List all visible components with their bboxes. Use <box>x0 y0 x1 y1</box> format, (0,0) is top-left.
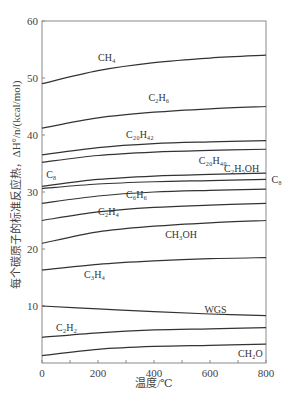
y-tick-label: 60 <box>27 15 39 27</box>
series-label: C₂₀H₄₂ <box>126 129 154 140</box>
y-tick-label: 20 <box>27 243 39 255</box>
x-tick-label: 200 <box>90 367 107 379</box>
x-tick-label: 0 <box>39 367 45 379</box>
series-line-c8 <box>42 179 266 188</box>
series-line-c3h4 <box>42 258 266 271</box>
series-line-c20h42 <box>42 141 266 155</box>
y-axis-title: 每个碳原子的标准反应热，ΔH°/n/(kcal/mol) <box>9 80 23 289</box>
series-label: CH₂O <box>238 348 263 359</box>
series-line-ch2o <box>42 344 266 355</box>
series-line-ch4 <box>42 55 266 83</box>
series-labels: CH₄C₂H₆C₂₀H₄₂C₈C₂₀H₄₀C₂H₅OHC₈C₆H₆C₂H₄CH₃… <box>46 52 282 359</box>
series-label: CH₄ <box>98 52 116 63</box>
series-label: C₃H₄ <box>84 269 105 280</box>
x-tick-label: 800 <box>258 367 275 379</box>
x-axis-title: 温度/℃ <box>135 376 172 389</box>
series-label: C₆H₆ <box>126 189 147 200</box>
y-tick-label: 40 <box>27 129 39 141</box>
series-line-c2h4 <box>42 203 266 220</box>
y-tick-label: 30 <box>27 186 39 198</box>
series-line-ch3oh <box>42 221 266 244</box>
series-label: C₂H₆ <box>148 92 169 103</box>
series-label: C₂H₂ <box>56 322 77 333</box>
series-line-wgs <box>42 306 266 316</box>
series-line-c2h6 <box>42 107 266 129</box>
series-label: WGS <box>204 304 226 315</box>
series-label: C₂H₄ <box>98 206 119 217</box>
y-tick-label: 10 <box>27 300 39 312</box>
series-label: CH₃OH <box>165 229 197 240</box>
y-tick-label: 50 <box>27 72 39 84</box>
series-label: C₈ <box>272 174 283 185</box>
series-label: C₂H₅OH <box>224 163 259 174</box>
series-label: C₂₀H₄₀ <box>199 155 227 166</box>
series-line-c20h40 <box>42 149 266 162</box>
x-tick-label: 600 <box>202 367 219 379</box>
series-label: C₈ <box>46 169 57 180</box>
series-line-c6h6 <box>42 189 266 203</box>
chart: 102030405060 0200400600800 CH₄C₂H₆C₂₀H₄₂… <box>0 0 293 405</box>
